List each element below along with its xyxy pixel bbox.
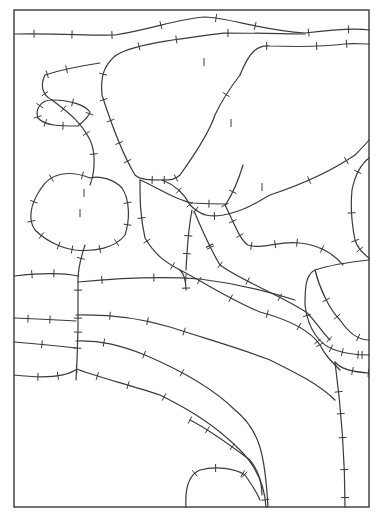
tick-mark [138, 217, 146, 218]
tick-mark [205, 426, 209, 433]
curve-horizontal-band-3 [14, 318, 76, 321]
tick-mark [339, 437, 347, 438]
tick-mark [171, 262, 175, 269]
tick-mark [124, 224, 132, 225]
tick-mark [36, 103, 43, 108]
diagram-frame [14, 10, 369, 507]
tick-mark [49, 175, 53, 182]
curve-right-lobe [305, 260, 369, 355]
tick-mark [39, 232, 44, 238]
curve-big-shape-right [162, 75, 240, 180]
tick-mark [184, 235, 192, 236]
curve-horizontal-band-1 [14, 273, 78, 276]
tick-mark [32, 270, 33, 278]
tick-mark [76, 365, 77, 373]
tick-mark [335, 391, 343, 392]
tick-mark [346, 40, 347, 48]
tick-mark [83, 131, 90, 135]
tick-mark [344, 157, 348, 164]
tick-mark [358, 351, 359, 359]
curve-horizontal-band-6 [76, 341, 268, 507]
tick-mark [223, 92, 230, 96]
curve-vertical-stem [76, 245, 85, 380]
curve-bottom-small-arch [186, 468, 260, 507]
tick-mark [114, 239, 118, 246]
tick-mark [251, 242, 252, 250]
tick-mark [42, 340, 43, 348]
tick-mark [274, 240, 275, 248]
curve-top-3 [240, 44, 369, 75]
tick-mark [90, 154, 98, 155]
curve-top-2 [115, 33, 305, 56]
curve-horizontal-band-5 [14, 342, 76, 348]
tick-mark [41, 91, 48, 96]
curve-inner-right-down [225, 205, 343, 265]
tick-mark [102, 276, 103, 284]
tick-mark-group [27, 14, 368, 500]
curve-right-lobe-inner [315, 270, 369, 340]
tick-mark [230, 444, 235, 450]
tick-mark [215, 14, 216, 22]
tick-mark [144, 239, 151, 243]
tick-mark [110, 312, 111, 320]
tick-mark [71, 246, 72, 254]
tick-mark [193, 207, 198, 213]
curve-big-shape-left [102, 56, 162, 180]
tick-mark [316, 343, 323, 347]
curve-inner-branch [226, 165, 243, 204]
curve-inner-box-top [140, 180, 226, 204]
curve-diag-band-2 [180, 270, 340, 370]
curve-inner-mid-down [186, 210, 192, 270]
curve-group [14, 17, 369, 507]
tick-mark [337, 413, 345, 414]
tick-mark [236, 233, 243, 237]
curve-bottom-arc-outer [14, 369, 266, 507]
curve-mid-diagonal-1 [162, 140, 369, 216]
tick-mark [297, 239, 298, 247]
curve-inner-left-down [140, 180, 186, 290]
tick-mark [57, 372, 58, 380]
tick-mark [176, 36, 177, 44]
tick-mark [197, 277, 201, 284]
curve-right-vertical [335, 362, 345, 507]
tick-mark [308, 29, 309, 37]
diagram-canvas [0, 0, 379, 531]
curve-top-1 [14, 17, 369, 35]
tick-mark [103, 339, 104, 347]
